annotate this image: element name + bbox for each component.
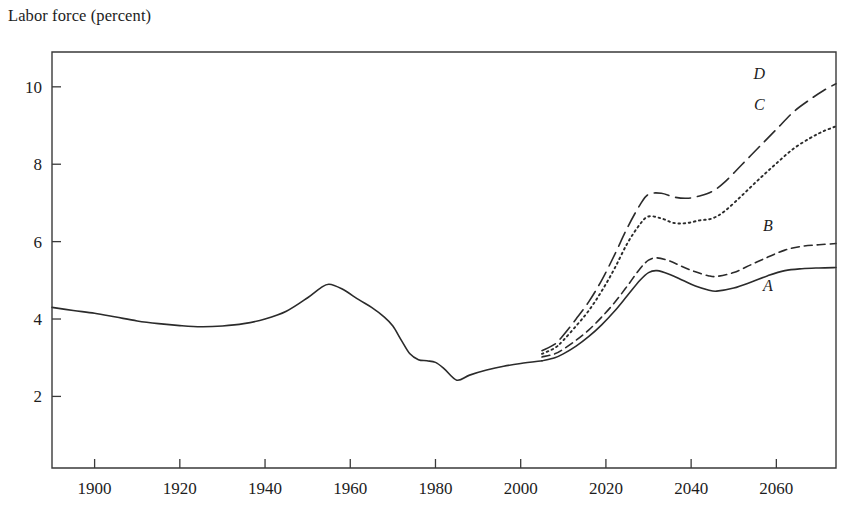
series-line-historical	[52, 284, 542, 380]
figure-container: Labor force (percent) 246810 19001920194…	[0, 0, 860, 517]
y-tick-label: 2	[34, 387, 43, 406]
x-tick-label: 2060	[759, 479, 793, 498]
series-line-A	[542, 268, 836, 361]
y-tick-label: 4	[34, 310, 43, 329]
series-label-A: A	[762, 277, 773, 294]
x-tick-label: 1980	[418, 479, 452, 498]
series-line-B	[542, 244, 836, 357]
y-tick-label: 6	[34, 233, 43, 252]
x-tick-label: 2040	[674, 479, 708, 498]
series-label-C: C	[754, 96, 765, 113]
y-tick-label: 8	[34, 155, 43, 174]
x-axis-ticks: 190019201940196019802000202020402060	[78, 459, 794, 498]
x-tick-label: 1900	[78, 479, 112, 498]
x-tick-label: 1940	[248, 479, 282, 498]
x-tick-label: 1960	[333, 479, 367, 498]
data-series-group	[52, 84, 836, 381]
chart-plot-area: 246810 190019201940196019802000202020402…	[0, 0, 860, 517]
series-line-D	[542, 84, 836, 351]
axis-frame	[52, 52, 836, 468]
x-tick-label: 2020	[589, 479, 623, 498]
series-label-B: B	[763, 217, 773, 234]
series-label-D: D	[753, 65, 766, 82]
y-axis-ticks: 246810	[25, 78, 61, 407]
x-tick-label: 1920	[163, 479, 197, 498]
y-tick-label: 10	[25, 78, 42, 97]
x-tick-label: 2000	[504, 479, 538, 498]
series-line-C	[542, 126, 836, 354]
